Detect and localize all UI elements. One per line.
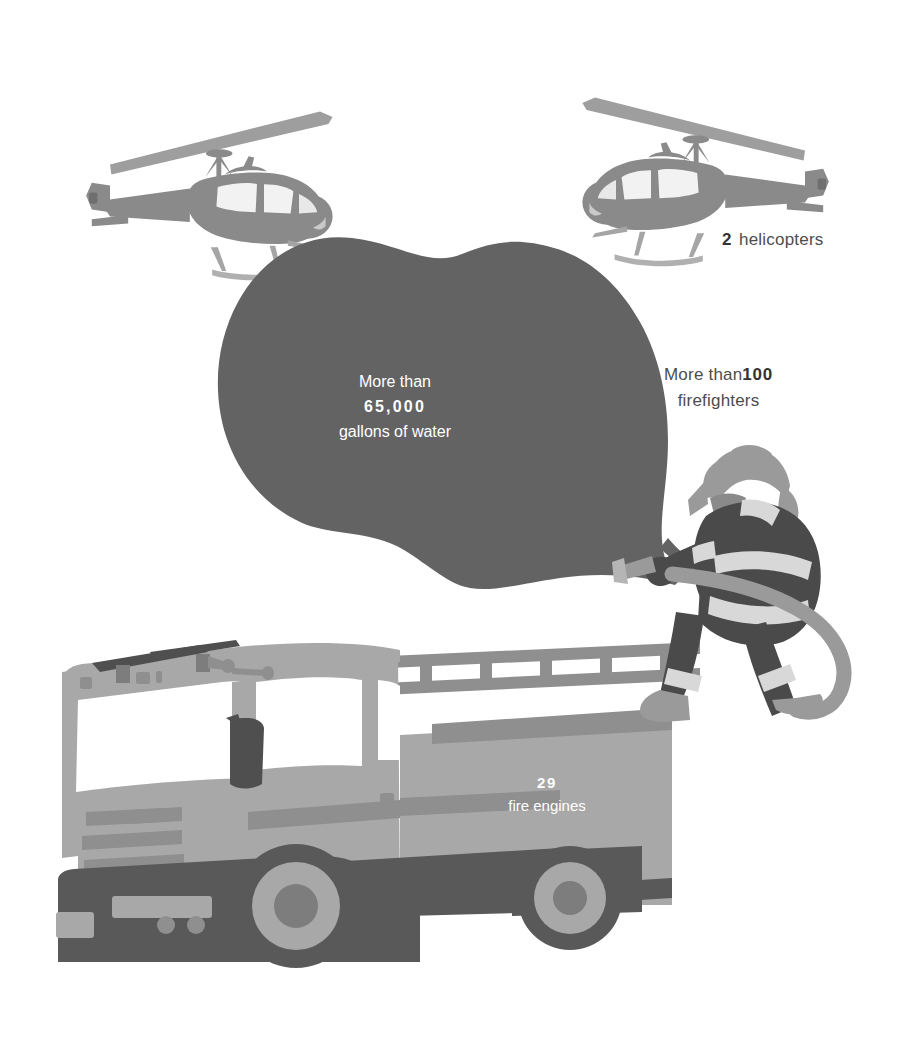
fire-engines-callout: 29 fire engines <box>467 772 627 817</box>
fire-engines-count: 29 <box>467 772 627 795</box>
water-count: 65,000 <box>280 395 510 420</box>
water-unit: gallons of water <box>280 420 510 445</box>
infographic-canvas: 2helicopters More than100 firefighters M… <box>0 0 909 1041</box>
helicopter-icon-1 <box>86 111 332 280</box>
firefighters-prefix: More than <box>664 365 742 384</box>
firefighters-line-1: More than100 <box>664 362 773 388</box>
firefighters-callout: More than100 firefighters <box>664 362 773 413</box>
water-prefix: More than <box>280 370 510 395</box>
water-callout: More than 65,000 gallons of water <box>280 370 510 444</box>
artwork-layer <box>0 0 909 1041</box>
firefighters-count: 100 <box>742 365 773 384</box>
helicopters-callout: 2helicopters <box>722 228 823 253</box>
helicopters-count: 2 <box>722 230 732 249</box>
helicopters-unit: helicopters <box>739 230 823 249</box>
firefighter-icon <box>612 445 844 722</box>
firefighters-unit: firefighters <box>664 388 773 414</box>
fire-engines-unit: fire engines <box>467 795 627 818</box>
